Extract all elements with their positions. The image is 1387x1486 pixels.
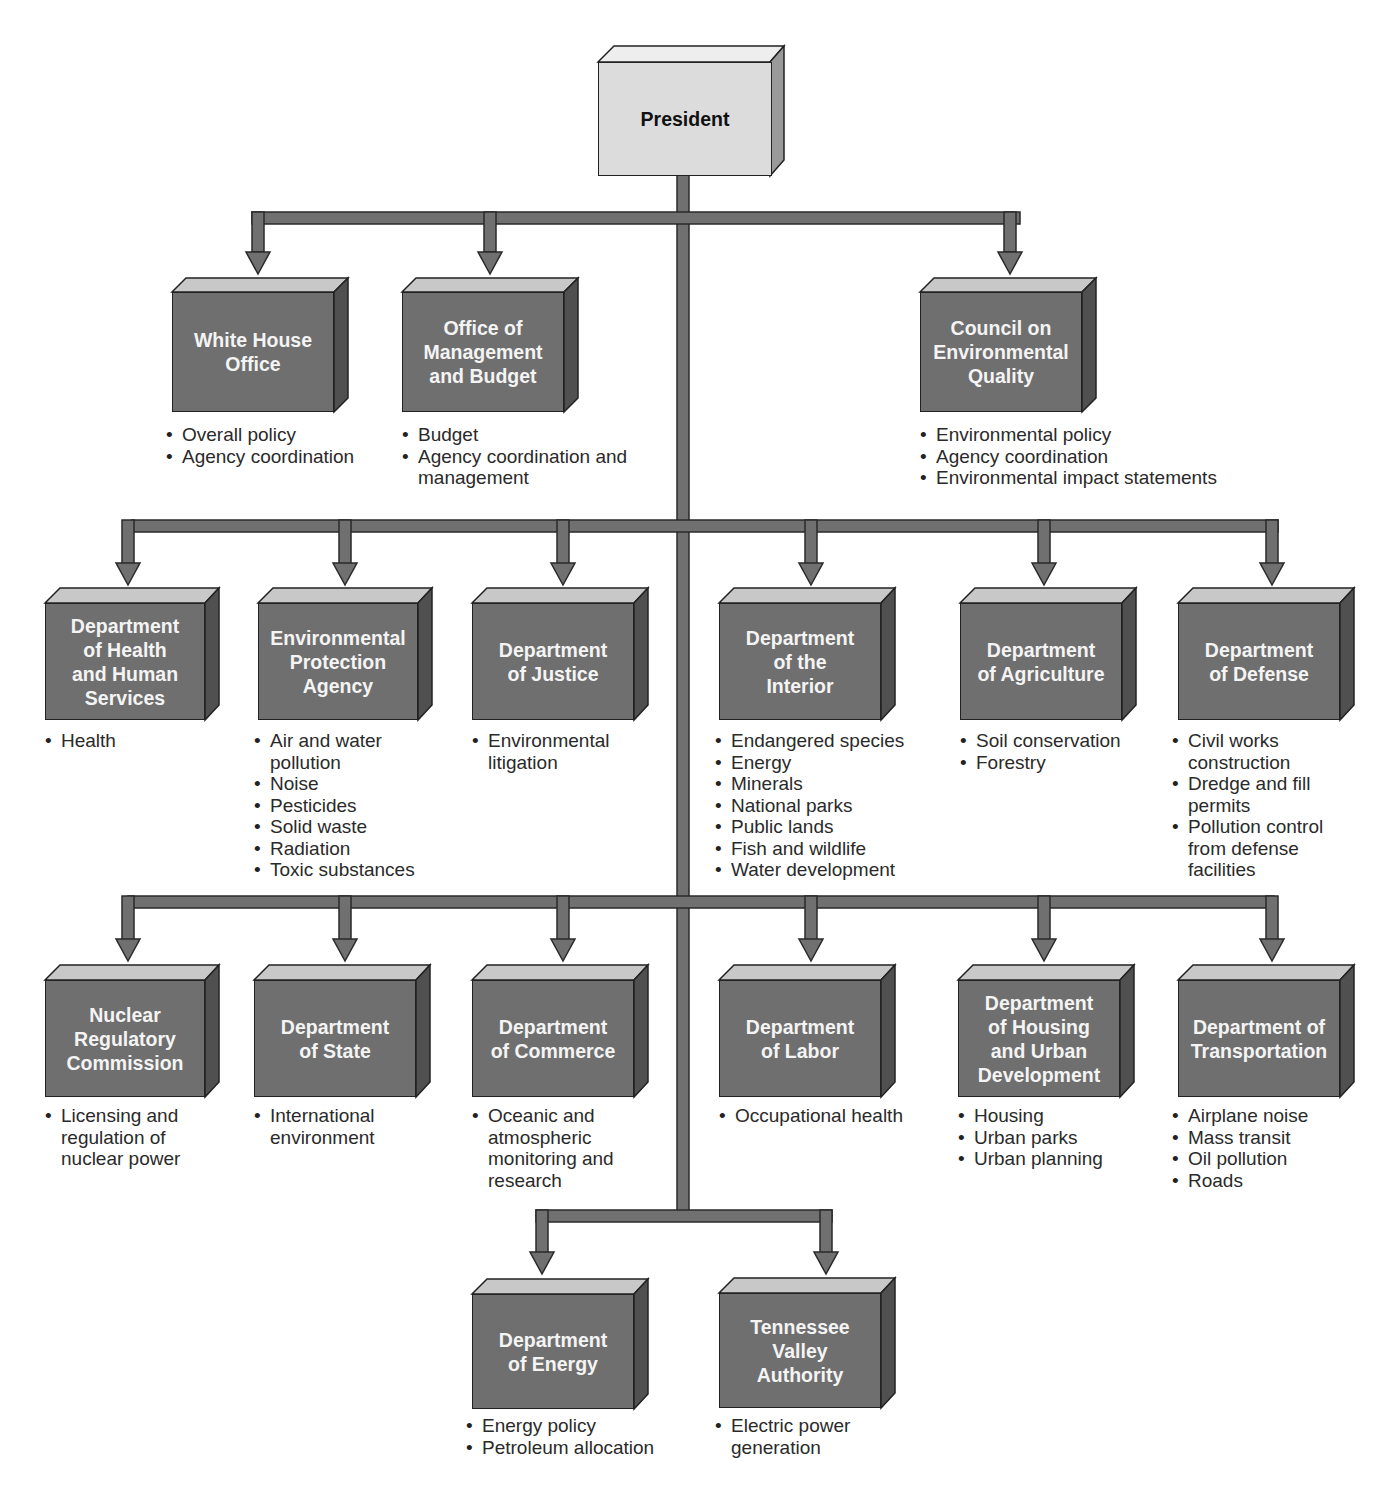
responsibilities-list: Environmental policy Agency coordination… — [920, 424, 1280, 489]
responsibilities-list: Budget Agency coordination and managemen… — [402, 424, 672, 489]
box-label: Department of Housing and Urban Developm… — [958, 980, 1120, 1097]
box-president: President — [598, 46, 784, 176]
list-item: Oceanic and atmospheric monitoring and r… — [472, 1105, 642, 1191]
box-label: Department of Energy — [472, 1294, 634, 1409]
list-item: Urban parks — [958, 1127, 1158, 1149]
list-item: Endangered species — [715, 730, 945, 752]
list-item: Petroleum allocation — [466, 1437, 696, 1459]
box-commerce: Department of Commerce — [472, 965, 648, 1097]
responsibilities-list: Oceanic and atmospheric monitoring and r… — [472, 1105, 642, 1191]
box-defense: Department of Defense — [1178, 588, 1354, 720]
list-item: Overall policy — [166, 424, 406, 446]
list-item: Oil pollution — [1172, 1148, 1372, 1170]
box-tva: Tennessee Valley Authority — [719, 1278, 895, 1408]
box-interior: Department of the Interior — [719, 588, 895, 720]
responsibilities-list: Occupational health — [719, 1105, 949, 1127]
list-item: Agency coordination and management — [402, 446, 672, 489]
list-item: Housing — [958, 1105, 1158, 1127]
box-label: Department of Defense — [1178, 603, 1340, 720]
responsibilities-list: Overall policy Agency coordination — [166, 424, 406, 467]
box-label: Nuclear Regulatory Commission — [45, 980, 205, 1097]
list-item: Public lands — [715, 816, 945, 838]
box-hud: Department of Housing and Urban Developm… — [958, 965, 1134, 1097]
list-item: International environment — [254, 1105, 414, 1148]
box-label: Department of Commerce — [472, 980, 634, 1097]
box-nrc: Nuclear Regulatory Commission — [45, 965, 219, 1097]
list-item: Urban planning — [958, 1148, 1158, 1170]
list-item: Water development — [715, 859, 945, 881]
list-item: Radiation — [254, 838, 454, 860]
responsibilities-list: Endangered species Energy Minerals Natio… — [715, 730, 945, 881]
list-item: Health — [45, 730, 245, 752]
list-item: Mass transit — [1172, 1127, 1372, 1149]
box-label: Department of Agriculture — [960, 603, 1122, 720]
list-item: Soil conservation — [960, 730, 1180, 752]
list-item: Roads — [1172, 1170, 1372, 1192]
responsibilities-list: Airplane noise Mass transit Oil pollutio… — [1172, 1105, 1372, 1191]
box-label: Environmental Protection Agency — [258, 603, 418, 720]
box-justice: Department of Justice — [472, 588, 648, 720]
box-label: Tennessee Valley Authority — [719, 1293, 881, 1408]
list-item: Air and water pollution — [254, 730, 454, 773]
box-label: Department of State — [254, 980, 416, 1097]
org-chart: President White House Office Overall pol… — [0, 0, 1387, 1486]
list-item: Agency coordination — [166, 446, 406, 468]
list-item: Energy — [715, 752, 945, 774]
box-labor: Department of Labor — [719, 965, 895, 1097]
list-item: Occupational health — [719, 1105, 949, 1127]
responsibilities-list: Electric power generation — [715, 1415, 885, 1458]
list-item: Electric power generation — [715, 1415, 885, 1458]
responsibilities-list: Energy policy Petroleum allocation — [466, 1415, 696, 1458]
responsibilities-list: Health — [45, 730, 245, 752]
list-item: Energy policy — [466, 1415, 696, 1437]
box-label: Council on Environmental Quality — [920, 292, 1082, 412]
box-label: Department of the Interior — [719, 603, 881, 720]
list-item: Licensing and regulation of nuclear powe… — [45, 1105, 221, 1170]
list-item: Environmental impact statements — [920, 467, 1280, 489]
responsibilities-list: Air and water pollution Noise Pesticides… — [254, 730, 454, 881]
list-item: Environmental litigation — [472, 730, 642, 773]
box-label: White House Office — [172, 292, 334, 412]
list-item: Airplane noise — [1172, 1105, 1372, 1127]
list-item: Minerals — [715, 773, 945, 795]
list-item: Toxic substances — [254, 859, 454, 881]
box-label: Department of Health and Human Services — [45, 603, 205, 720]
list-item: Pollution control from defense facilitie… — [1172, 816, 1348, 881]
president-label: President — [598, 62, 772, 176]
box-label: Office of Management and Budget — [402, 292, 564, 412]
responsibilities-list: Soil conservation Forestry — [960, 730, 1180, 773]
list-item: Agency coordination — [920, 446, 1280, 468]
list-item: Solid waste — [254, 816, 454, 838]
box-label: Department of Labor — [719, 980, 881, 1097]
box-label: Department of Transportation — [1178, 980, 1340, 1097]
list-item: Pesticides — [254, 795, 454, 817]
list-item: Forestry — [960, 752, 1180, 774]
box-state: Department of State — [254, 965, 430, 1097]
list-item: Environmental policy — [920, 424, 1280, 446]
list-item: Fish and wildlife — [715, 838, 945, 860]
list-item: Dredge and fill permits — [1172, 773, 1348, 816]
list-item: National parks — [715, 795, 945, 817]
box-label: Department of Justice — [472, 603, 634, 720]
list-item: Civil works construction — [1172, 730, 1348, 773]
box-council-env-quality: Council on Environmental Quality — [920, 278, 1096, 412]
box-white-house-office: White House Office — [172, 278, 348, 412]
responsibilities-list: Housing Urban parks Urban planning — [958, 1105, 1158, 1170]
responsibilities-list: Environmental litigation — [472, 730, 642, 773]
box-epa: Environmental Protection Agency — [258, 588, 432, 720]
box-transportation: Department of Transportation — [1178, 965, 1354, 1097]
box-omb: Office of Management and Budget — [402, 278, 578, 412]
box-energy: Department of Energy — [472, 1279, 648, 1409]
responsibilities-list: International environment — [254, 1105, 414, 1148]
responsibilities-list: Civil works construction Dredge and fill… — [1172, 730, 1348, 881]
responsibilities-list: Licensing and regulation of nuclear powe… — [45, 1105, 221, 1170]
box-agriculture: Department of Agriculture — [960, 588, 1136, 720]
list-item: Noise — [254, 773, 454, 795]
list-item: Budget — [402, 424, 672, 446]
box-hhs: Department of Health and Human Services — [45, 588, 219, 720]
